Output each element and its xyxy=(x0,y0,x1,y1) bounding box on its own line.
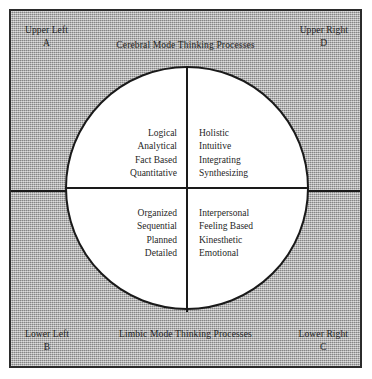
diagram-frame: Upper Left A Upper Right D Lower Left B … xyxy=(9,9,362,368)
quadrant-d-trait: Holistic xyxy=(199,127,248,140)
quadrant-circle xyxy=(65,66,309,310)
corner-letter-lower-right: C xyxy=(299,341,348,354)
quadrant-b-trait: Organized xyxy=(137,207,177,220)
quadrant-a-trait: Quantitative xyxy=(130,167,177,180)
quadrant-b-trait: Planned xyxy=(137,234,177,247)
edge-label-cerebral-mode: Cerebral Mode Thinking Processes xyxy=(11,40,360,50)
quadrant-a-traits: Logical Analytical Fact Based Quantitati… xyxy=(130,127,177,181)
quadrant-a-trait: Fact Based xyxy=(130,154,177,167)
circle-divider-vertical xyxy=(186,68,188,308)
quadrant-a-trait: Logical xyxy=(130,127,177,140)
quadrant-a-trait: Analytical xyxy=(130,140,177,153)
corner-position-upper-right: Upper Right xyxy=(300,24,348,37)
quadrant-d-trait: Integrating xyxy=(199,154,248,167)
quadrant-c-trait: Kinesthetic xyxy=(199,234,253,247)
edge-label-limbic-mode: Limbic Mode Thinking Processes xyxy=(11,329,360,339)
quadrant-d-trait: Synthesizing xyxy=(199,167,248,180)
corner-position-upper-left: Upper Left xyxy=(25,24,68,37)
quadrant-b-trait: Detailed xyxy=(137,247,177,260)
quadrant-c-trait: Emotional xyxy=(199,247,253,260)
quadrant-d-trait: Intuitive xyxy=(199,140,248,153)
quadrant-c-trait: Interpersonal xyxy=(199,207,253,220)
corner-letter-lower-left: B xyxy=(25,341,69,354)
quadrant-b-traits: Organized Sequential Planned Detailed xyxy=(137,207,177,261)
quadrant-c-traits: Interpersonal Feeling Based Kinesthetic … xyxy=(199,207,253,261)
quadrant-d-traits: Holistic Intuitive Integrating Synthesiz… xyxy=(199,127,248,181)
quadrant-b-trait: Sequential xyxy=(137,220,177,233)
quadrant-c-trait: Feeling Based xyxy=(199,220,253,233)
diagram-canvas: Upper Left A Upper Right D Lower Left B … xyxy=(0,0,372,379)
